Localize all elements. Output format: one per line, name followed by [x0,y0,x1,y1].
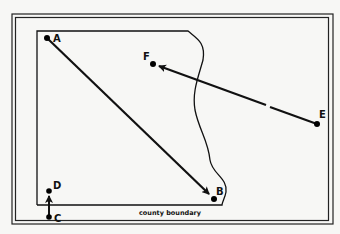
point-c [46,214,52,220]
point-a [44,35,50,41]
arrow-e-to-f-segment-2 [159,66,266,105]
label-c: C [54,213,61,224]
label-e: E [319,109,326,120]
arrow-e-to-f-segment-1 [270,107,317,124]
point-f [150,61,156,67]
label-f: F [143,51,150,62]
point-e [314,121,320,127]
arrow-a-to-b [47,38,209,194]
point-d [46,188,52,194]
label-a: A [53,33,61,44]
label-d: D [53,180,61,191]
diagram-svg: A B C D E F county boundary [0,0,340,234]
outer-frame [12,14,333,224]
inner-frame [16,18,329,221]
label-b: B [216,186,224,197]
county-boundary-caption: county boundary [139,209,202,217]
diagram-canvas: A B C D E F county boundary [0,0,340,234]
